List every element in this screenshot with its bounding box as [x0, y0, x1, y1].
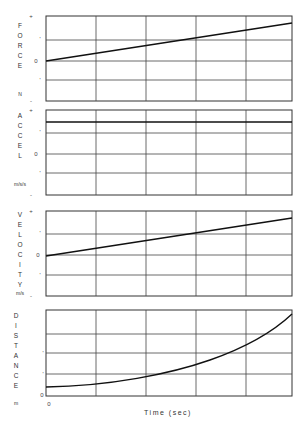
svg-text:T: T [18, 271, 22, 278]
svg-text:0: 0 [34, 151, 38, 157]
svg-text:T: T [14, 342, 18, 349]
svg-text:': ' [42, 350, 43, 356]
svg-text:N: N [14, 362, 19, 369]
svg-text:': ' [39, 170, 40, 176]
svg-text:O: O [17, 241, 22, 248]
svg-text:': ' [39, 129, 40, 135]
svg-text:L: L [18, 231, 22, 238]
accel-panel: + ' 0 ' - A C C E L m/s/s [14, 107, 292, 198]
svg-text:I: I [15, 322, 17, 329]
svg-text:0: 0 [36, 252, 40, 258]
svg-text:C: C [14, 372, 19, 379]
svg-text:E: E [18, 142, 23, 149]
svg-text:': ' [39, 230, 40, 236]
force-unit: N [18, 91, 22, 97]
svg-text:R: R [18, 42, 23, 49]
svg-text:L: L [18, 152, 22, 159]
svg-text:m/s: m/s [16, 290, 25, 296]
x-zero-label: 0 [47, 401, 51, 407]
force-plus: + [29, 13, 33, 19]
svg-text:0: 0 [40, 392, 44, 398]
svg-text:S: S [14, 332, 19, 339]
motion-graphs: + ' 0 ' - F O R C E N + ' 0 ' - A C C E … [0, 0, 305, 424]
svg-text:Y: Y [18, 281, 23, 288]
svg-text:C: C [18, 132, 23, 139]
svg-text:+: + [29, 107, 33, 113]
svg-text:A: A [18, 112, 23, 119]
velocity-line [46, 218, 292, 256]
distance-curve [46, 314, 292, 387]
svg-text:+: + [29, 208, 33, 214]
distance-panel: ' ' 0 D I S T A N C E m [14, 310, 292, 406]
svg-text:': ' [39, 77, 40, 83]
svg-text:C: C [18, 251, 23, 258]
force-panel: + ' 0 ' - F O R C E N [17, 13, 292, 104]
svg-text:-: - [30, 293, 32, 299]
svg-text:m: m [14, 400, 18, 406]
svg-text:A: A [14, 352, 19, 359]
svg-text:': ' [39, 36, 40, 42]
svg-text:': ' [39, 272, 40, 278]
svg-text:O: O [17, 32, 22, 39]
force-line [46, 23, 292, 61]
velocity-panel: + ' 0 ' - V E L O C I T Y m/s [16, 208, 292, 299]
force-zero: 0 [34, 58, 38, 64]
svg-text:D: D [14, 312, 19, 319]
svg-text:E: E [18, 221, 23, 228]
svg-text:C: C [18, 52, 23, 59]
svg-text:C: C [18, 122, 23, 129]
svg-text:E: E [18, 62, 23, 69]
force-minus: - [30, 98, 32, 104]
x-axis-label: Time (sec) [144, 409, 192, 417]
svg-text:V: V [18, 211, 23, 218]
svg-text:m/s/s: m/s/s [14, 181, 26, 187]
svg-text:-: - [30, 192, 32, 198]
svg-text:I: I [19, 261, 21, 268]
svg-text:F: F [18, 22, 22, 29]
svg-text:': ' [42, 371, 43, 377]
svg-text:E: E [14, 382, 19, 389]
